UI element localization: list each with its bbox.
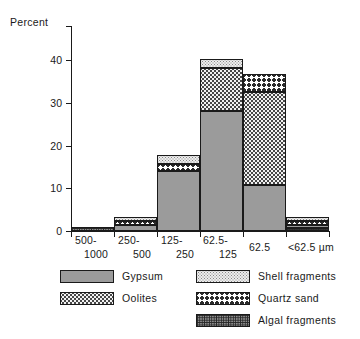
bar-62.5	[243, 26, 286, 232]
bar-segment-oolites	[243, 92, 286, 185]
bar-segment-shell-fragments	[200, 59, 243, 68]
legend-label-shell-fragments: Shell fragments	[258, 270, 336, 283]
legend-swatch-quartz-sand	[196, 292, 250, 305]
bar-segment-algal-fragments	[286, 228, 329, 231]
bar-segment-shell-fragments	[286, 217, 329, 221]
bar-500-1000	[71, 26, 114, 232]
x-tick-label-500-1000-line2: 1000	[84, 248, 108, 260]
x-tick-label-62.5-125-line1: 62.5-	[203, 234, 228, 246]
x-tick-3	[200, 232, 201, 237]
x-tick-4	[243, 232, 244, 237]
bar-62.5-125	[200, 26, 243, 232]
x-tick-2	[157, 232, 158, 237]
y-tick-label-40: 40	[36, 54, 62, 66]
y-tick-label-0: 0	[36, 225, 62, 237]
y-axis-title: Percent	[10, 16, 48, 28]
x-tick-5	[286, 232, 287, 237]
x-tick-label-250-500-line1: 250-	[118, 234, 140, 246]
bar-segment-quartz-sand	[286, 221, 329, 225]
legend-label-oolites: Oolites	[122, 292, 157, 305]
bar-less-than-62.5	[286, 26, 329, 232]
legend-label-algal-fragments: Algal fragments	[258, 314, 336, 327]
legend-entry-oolites: Oolites	[60, 292, 200, 306]
legend-entry-shell-fragments: Shell fragments	[196, 270, 356, 284]
bar-segment-gypsum	[157, 171, 200, 231]
bar-segment-gypsum	[114, 225, 157, 231]
bar-segment-gypsum	[243, 185, 286, 231]
bar-segment-algal-fragments	[71, 227, 114, 231]
x-tick-label-125-250-line1: 125-	[161, 234, 183, 246]
bar-segment-quartz-sand	[243, 74, 286, 92]
legend-label-quartz-sand: Quartz sand	[258, 292, 319, 305]
legend-entry-gypsum: Gypsum	[60, 270, 200, 284]
x-tick-label-62.5: 62.5	[249, 241, 270, 253]
bar-250-500	[114, 26, 157, 232]
x-tick-1	[114, 232, 115, 237]
chart-figure: Percent 40 30 20 10 0	[0, 0, 360, 339]
y-tick-label-10: 10	[36, 182, 62, 194]
legend-entry-quartz-sand: Quartz sand	[196, 292, 356, 306]
bar-125-250	[157, 26, 200, 232]
bar-segment-gypsum	[286, 225, 329, 228]
legend-swatch-shell-fragments	[196, 270, 250, 283]
legend-swatch-gypsum	[60, 270, 114, 283]
x-tick-6	[329, 232, 330, 237]
legend-swatch-oolites	[60, 292, 114, 305]
y-tick-label-20: 20	[36, 140, 62, 152]
x-tick-0	[71, 232, 72, 237]
x-tick-label-less-than-62.5: <62.5 µm	[288, 241, 334, 253]
bar-segment-shell-fragments	[157, 155, 200, 164]
bar-segment-quartz-sand	[114, 221, 157, 225]
y-tick-label-30: 30	[36, 97, 62, 109]
bar-segment-gypsum	[200, 111, 243, 231]
bar-segment-quartz-sand	[157, 164, 200, 171]
x-tick-label-500-1000-line1: 500-	[75, 234, 97, 246]
bar-segment-oolites	[200, 68, 243, 111]
chart-legend: Gypsum Shell fragments Oolites Quartz sa…	[0, 268, 360, 330]
legend-entry-algal-fragments: Algal fragments	[196, 314, 356, 328]
legend-swatch-algal-fragments	[196, 314, 250, 327]
bar-segment-shell-fragments	[114, 217, 157, 221]
x-tick-label-125-250-line2: 250	[176, 248, 194, 260]
x-tick-label-250-500-line2: 500	[133, 248, 151, 260]
legend-label-gypsum: Gypsum	[122, 270, 163, 283]
x-tick-label-62.5-125-line2: 125	[219, 248, 237, 260]
